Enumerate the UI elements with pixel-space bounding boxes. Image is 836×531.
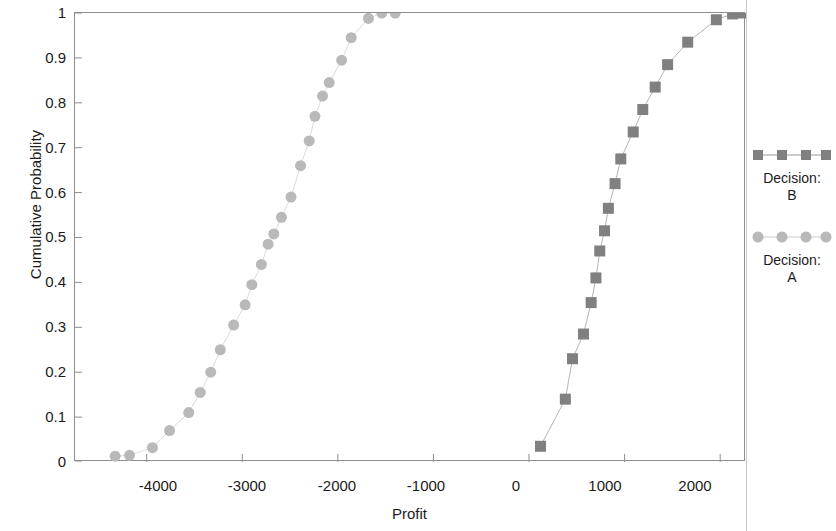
y-tick-label: 1 — [6, 5, 66, 20]
y-axis-ticks — [75, 13, 82, 462]
y-tick-label: 0 — [6, 454, 66, 469]
chart-legend: Decision: B Decision: A — [746, 0, 836, 531]
x-tick-label: -3000 — [207, 478, 287, 493]
x-tick-label: 0 — [476, 478, 556, 493]
legend-label-line1: Decision: — [763, 252, 821, 268]
y-tick-label: 0.2 — [6, 364, 66, 379]
x-tick-label: -1000 — [386, 478, 466, 493]
y-tick-label: 0.9 — [6, 50, 66, 65]
series-b-line — [540, 13, 742, 446]
series-b-markers — [535, 13, 746, 452]
legend-item-decision-a[interactable]: Decision: A — [747, 228, 836, 286]
series-a-markers — [110, 13, 401, 462]
x-tick-label: 2000 — [655, 478, 735, 493]
x-tick-label: -2000 — [297, 478, 377, 493]
y-tick-label: 0.1 — [6, 409, 66, 424]
chart-canvas — [75, 13, 746, 462]
legend-label-line2: B — [747, 187, 836, 204]
series-a-line — [115, 13, 395, 456]
y-axis-title: Cumulative Probability — [27, 105, 44, 305]
legend-item-decision-b[interactable]: Decision: B — [747, 146, 836, 204]
x-axis-title: Profit — [74, 505, 745, 522]
legend-label-line2: A — [747, 269, 836, 286]
legend-label-decision-b: Decision: B — [747, 170, 836, 204]
x-tick-label: -4000 — [118, 478, 198, 493]
x-axis-ticks — [147, 454, 721, 462]
x-axis-tick-labels: -4000 -3000 -2000 -1000 0 1000 2000 — [0, 478, 836, 502]
legend-swatch-circle-icon — [749, 228, 835, 246]
legend-swatch-square-icon — [749, 146, 835, 164]
y-tick-label: 0.3 — [6, 319, 66, 334]
chart-root: 1 0.9 0.8 0.7 0.6 0.5 0.4 0.3 0.2 0.1 0 … — [0, 0, 836, 531]
legend-label-line1: Decision: — [763, 170, 821, 186]
plot-area — [74, 12, 745, 461]
legend-label-decision-a: Decision: A — [747, 252, 836, 286]
x-tick-label: 1000 — [565, 478, 645, 493]
